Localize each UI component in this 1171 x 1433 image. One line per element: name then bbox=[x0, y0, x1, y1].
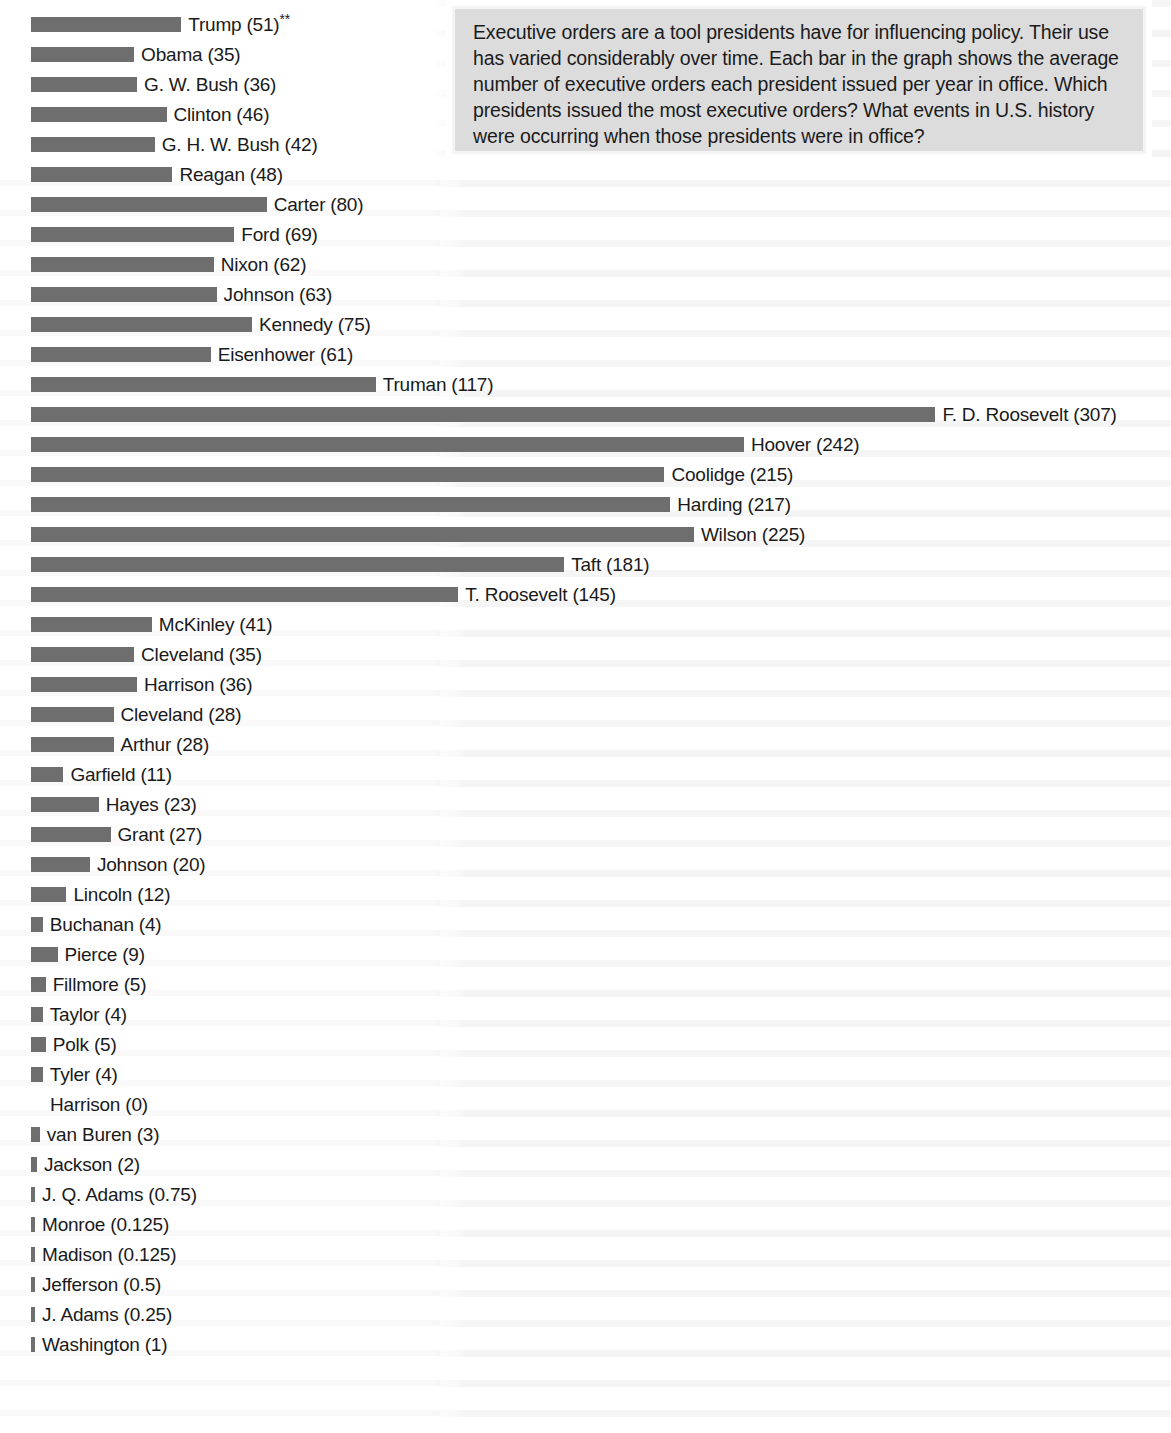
bar-row: Johnson (20) bbox=[0, 849, 205, 879]
bar-label: Johnson (20) bbox=[97, 855, 206, 874]
bar-label: Harding (217) bbox=[677, 495, 791, 514]
bar-label: Pierce (9) bbox=[65, 945, 145, 964]
bar-label: Cleveland (35) bbox=[141, 645, 262, 664]
bar-row: Wilson (225) bbox=[0, 519, 805, 549]
bar-johnson bbox=[31, 857, 90, 872]
bar-row: Taft (181) bbox=[0, 549, 649, 579]
bar-label: Taylor (4) bbox=[50, 1005, 127, 1024]
bar-left-margin bbox=[0, 384, 31, 385]
bar-left-margin bbox=[0, 1164, 31, 1165]
bar-hoover bbox=[31, 437, 744, 452]
bar-left-margin bbox=[0, 1044, 31, 1045]
bar-left-margin bbox=[0, 324, 31, 325]
bar-label: Hoover (242) bbox=[751, 435, 859, 454]
bar-grant bbox=[31, 827, 111, 842]
bar-label: Buchanan (4) bbox=[50, 915, 162, 934]
bar-left-margin bbox=[0, 414, 31, 415]
bar-row: Hayes (23) bbox=[0, 789, 197, 819]
bar-row: F. D. Roosevelt (307) bbox=[0, 399, 1117, 429]
bar-buchanan bbox=[31, 917, 43, 932]
bar-eisenhower bbox=[31, 347, 211, 362]
bar-cleveland bbox=[31, 707, 114, 722]
bar-row: Kennedy (75) bbox=[0, 309, 371, 339]
bar-clinton bbox=[31, 107, 167, 122]
bar-left-margin bbox=[0, 1314, 31, 1315]
bar-row: Garfield (11) bbox=[0, 759, 172, 789]
prompt-text: Executive orders are a tool presidents h… bbox=[473, 19, 1127, 149]
bar-label: Washington (1) bbox=[42, 1335, 167, 1354]
bar-hayes bbox=[31, 797, 99, 812]
bar-label: Clinton (46) bbox=[174, 105, 270, 124]
bar-row: Polk (5) bbox=[0, 1029, 117, 1059]
bar-label: Jefferson (0.5) bbox=[42, 1275, 161, 1294]
bar-left-margin bbox=[0, 894, 31, 895]
bar-wilson bbox=[31, 527, 694, 542]
bar-label: Harrison (0) bbox=[50, 1095, 148, 1114]
bar-label: Truman (117) bbox=[383, 375, 494, 394]
bar-left-margin bbox=[0, 504, 31, 505]
bar-row: Harrison (36) bbox=[0, 669, 252, 699]
bar-t-roosevelt bbox=[31, 587, 458, 602]
bar-row: Clinton (46) bbox=[0, 99, 269, 129]
bar-left-margin bbox=[0, 564, 31, 565]
bar-row: G. H. W. Bush (42) bbox=[0, 129, 318, 159]
bar-label: J. Adams (0.25) bbox=[42, 1305, 172, 1324]
bar-label: Reagan (48) bbox=[179, 165, 282, 184]
bar-label: Arthur (28) bbox=[121, 735, 210, 754]
bar-left-margin bbox=[0, 1104, 31, 1105]
bar-label: Harrison (36) bbox=[144, 675, 252, 694]
bar-taylor bbox=[31, 1007, 43, 1022]
bar-row: Obama (35) bbox=[0, 39, 240, 69]
bar-row: Reagan (48) bbox=[0, 159, 283, 189]
bar-label: Taft (181) bbox=[571, 555, 649, 574]
bar-left-margin bbox=[0, 444, 31, 445]
bar-row: Fillmore (5) bbox=[0, 969, 146, 999]
prompt-callout-box: Executive orders are a tool presidents h… bbox=[446, 0, 1152, 160]
bar-jefferson bbox=[31, 1277, 35, 1292]
bar-label: Jackson (2) bbox=[44, 1155, 140, 1174]
bar-kennedy bbox=[31, 317, 252, 332]
bar-label: Lincoln (12) bbox=[73, 885, 170, 904]
bar-row: van Buren (3) bbox=[0, 1119, 159, 1149]
bar-left-margin bbox=[0, 654, 31, 655]
bar-left-margin bbox=[0, 684, 31, 685]
bar-left-margin bbox=[0, 264, 31, 265]
bar-van-buren bbox=[31, 1127, 40, 1142]
bar-left-margin bbox=[0, 144, 31, 145]
bar-row: McKinley (41) bbox=[0, 609, 272, 639]
bar-mckinley bbox=[31, 617, 152, 632]
bar-left-margin bbox=[0, 1254, 31, 1255]
bar-fillmore bbox=[31, 977, 46, 992]
bar-left-margin bbox=[0, 114, 31, 115]
bar-label: Ford (69) bbox=[241, 225, 317, 244]
bar-label: Garfield (11) bbox=[70, 765, 172, 784]
bar-lincoln bbox=[31, 887, 66, 902]
bar-nixon bbox=[31, 257, 214, 272]
bar-label: G. H. W. Bush (42) bbox=[162, 135, 318, 154]
bar-row: Jefferson (0.5) bbox=[0, 1269, 161, 1299]
bar-label: F. D. Roosevelt (307) bbox=[942, 405, 1116, 424]
bar-j-adams bbox=[31, 1307, 35, 1322]
bar-label: Coolidge (215) bbox=[671, 465, 793, 484]
bar-label: T. Roosevelt (145) bbox=[465, 585, 616, 604]
bar-row: Cleveland (35) bbox=[0, 639, 262, 669]
bar-left-margin bbox=[0, 954, 31, 955]
bar-ford bbox=[31, 227, 234, 242]
bar-label: McKinley (41) bbox=[159, 615, 273, 634]
bar-row: Harrison (0) bbox=[0, 1089, 148, 1119]
bar-row: J. Adams (0.25) bbox=[0, 1299, 172, 1329]
bar-row: Carter (80) bbox=[0, 189, 363, 219]
bar-pierce bbox=[31, 947, 58, 962]
bar-label: Obama (35) bbox=[141, 45, 240, 64]
bar-row: Trump (51)** bbox=[0, 9, 290, 39]
bar-harrison bbox=[31, 677, 137, 692]
bar-label: Polk (5) bbox=[53, 1035, 117, 1054]
bar-johnson bbox=[31, 287, 217, 302]
bar-row: Jackson (2) bbox=[0, 1149, 140, 1179]
bar-label: van Buren (3) bbox=[47, 1125, 160, 1144]
bar-left-margin bbox=[0, 534, 31, 535]
bar-label: Johnson (63) bbox=[224, 285, 333, 304]
bar-arthur bbox=[31, 737, 114, 752]
bar-label: Nixon (62) bbox=[221, 255, 307, 274]
bar-row: T. Roosevelt (145) bbox=[0, 579, 616, 609]
